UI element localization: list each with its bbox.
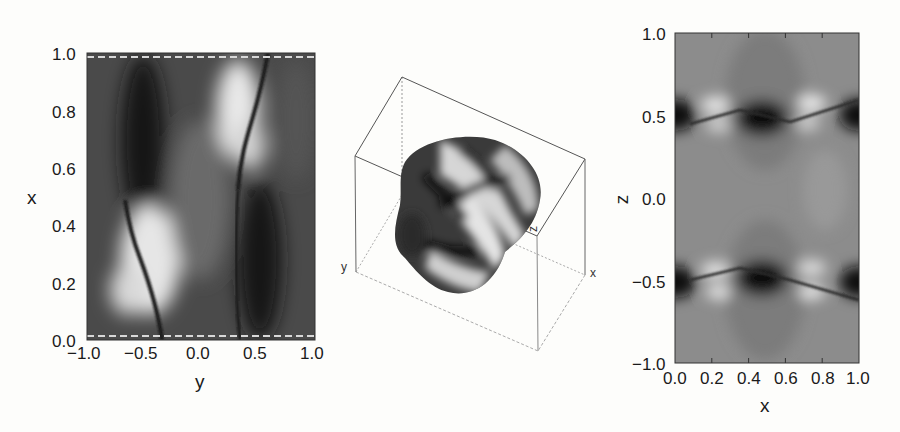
left-xtick-neg05: −0.5 bbox=[124, 345, 158, 362]
left-xtick-0: 0.0 bbox=[186, 345, 210, 362]
right-xtick-04: 0.4 bbox=[737, 370, 761, 387]
axis-label-z-3d: z bbox=[526, 226, 540, 232]
left-xtick-1: 1.0 bbox=[300, 345, 324, 362]
right-ytick-1: 1.0 bbox=[642, 26, 666, 43]
right-ylabel: z bbox=[612, 195, 631, 205]
left-xlabel: y bbox=[195, 372, 205, 391]
right-xtick-06: 0.6 bbox=[774, 370, 798, 387]
left-ytick-0.4: 0.4 bbox=[52, 218, 76, 235]
left-ytick-0.8: 0.8 bbox=[52, 104, 76, 121]
left-xtick-neg1: −1.0 bbox=[67, 345, 101, 362]
right-ytick-0: 0.0 bbox=[642, 191, 666, 208]
right-ytick-05: 0.5 bbox=[642, 109, 666, 126]
left-ytick-0.6: 0.6 bbox=[52, 161, 76, 178]
left-xtick-05: 0.5 bbox=[243, 345, 267, 362]
right-heatmap-panel: 1.0 0.5 0.0 −0.5 −1.0 z 0.0 0.2 0.4 0.6 … bbox=[590, 0, 900, 432]
right-xtick-02: 0.2 bbox=[700, 370, 724, 387]
left-heatmap-plot bbox=[0, 0, 330, 432]
right-xtick-1: 1.0 bbox=[846, 370, 870, 387]
right-xlabel: x bbox=[760, 396, 770, 415]
axis-label-y-3d: y bbox=[341, 260, 347, 274]
left-ytick-0.2: 0.2 bbox=[52, 276, 76, 293]
left-heatmap-panel: 1.0 0.8 0.6 0.4 0.2 0.0 x −1.0 −0.5 0.0 … bbox=[0, 0, 330, 432]
right-xtick-08: 0.8 bbox=[811, 370, 835, 387]
left-ytick-1: 1.0 bbox=[52, 46, 76, 63]
right-xtick-0: 0.0 bbox=[663, 370, 687, 387]
left-ylabel: x bbox=[27, 188, 37, 207]
right-ytick-neg05: −0.5 bbox=[632, 274, 666, 291]
right-ytick-neg1: −1.0 bbox=[632, 356, 666, 373]
